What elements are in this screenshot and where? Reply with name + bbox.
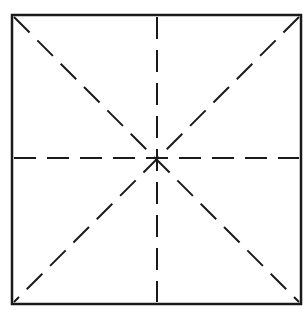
dashed-guide-lines: [14, 17, 299, 302]
diagram-canvas: [0, 0, 308, 311]
